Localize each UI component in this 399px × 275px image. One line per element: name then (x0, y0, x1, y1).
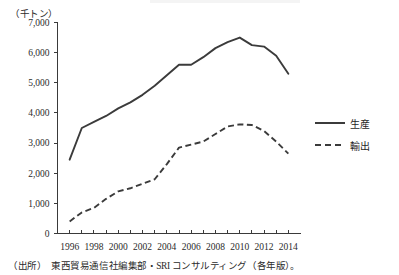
x-tick-label: 2014 (279, 242, 298, 252)
x-tick-label: 2012 (255, 242, 274, 252)
x-tick-label: 2000 (109, 242, 128, 252)
legend-label-production: 生産 (350, 116, 370, 131)
legend-swatch-dashed-icon (315, 140, 345, 150)
legend-label-export: 輸出 (350, 138, 370, 153)
y-tick-label: 3,000 (28, 138, 50, 148)
chart-legend: 生産 輸出 (315, 112, 393, 156)
source-note: （出所）東西貿易通信社編集部・SRI コンサルティング（各年版）。 (8, 258, 299, 272)
series-line-production (70, 38, 289, 160)
chart-figure: （千トン） 01,0002,0003,0004,0005,0006,0007,0… (0, 0, 399, 275)
y-tick-label: 0 (45, 229, 50, 239)
y-tick-label: 5,000 (28, 78, 50, 88)
legend-swatch-solid-icon (315, 118, 345, 128)
x-tick-label: 2008 (206, 242, 225, 252)
y-tick-label: 4,000 (28, 108, 50, 118)
legend-item-export: 輸出 (315, 134, 393, 156)
legend-item-production: 生産 (315, 112, 393, 134)
x-tick-label: 2002 (133, 242, 152, 252)
x-tick-label: 2010 (230, 242, 249, 252)
x-tick-label: 2004 (157, 242, 176, 252)
source-text: 東西貿易通信社編集部・SRI コンサルティング（各年版）。 (51, 261, 299, 271)
series-line-export (70, 124, 289, 221)
x-tick-label: 2006 (182, 242, 201, 252)
y-tick-label: 7,000 (28, 18, 50, 28)
x-tick-label: 1996 (60, 242, 79, 252)
x-tick-label: 1998 (84, 242, 103, 252)
source-tag: （出所） (8, 261, 46, 271)
y-tick-label: 2,000 (28, 169, 50, 179)
y-tick-label: 1,000 (28, 199, 50, 209)
y-tick-label: 6,000 (28, 48, 50, 58)
